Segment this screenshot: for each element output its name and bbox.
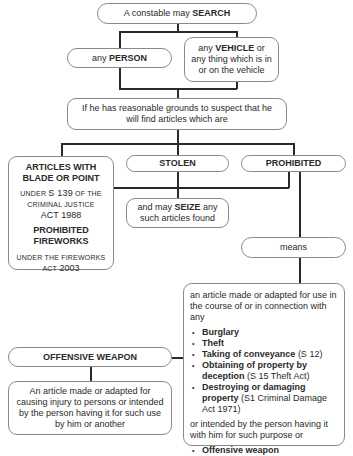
list-item: Taking of conveyance (S 12) <box>202 349 338 360</box>
person-keyword: PERSON <box>109 53 147 63</box>
connector <box>61 143 294 145</box>
blade-title: BLADE OR POINT <box>22 173 99 183</box>
vehicle-keyword: VEHICLE <box>215 43 254 53</box>
list-item: Burglary <box>202 327 338 338</box>
offensive-definition-node: An article made or adapted for causing i… <box>8 381 172 435</box>
grounds-text: If he has reasonable grounds to suspect … <box>82 103 272 114</box>
search-text: A constable may <box>124 8 193 18</box>
connector <box>177 88 179 98</box>
seize-text: any <box>201 202 218 212</box>
offensive-weapon-node: OFFENSIVE WEAPON <box>8 347 172 367</box>
grounds-node: If he has reasonable grounds to suspect … <box>67 98 287 130</box>
blade-node: ARTICLES WITH BLADE OR POINT UNDER S 139… <box>8 156 114 270</box>
connector <box>119 68 121 89</box>
list-item: Obtaining of property by deception (S 15… <box>202 360 338 382</box>
blade-ref: ACT <box>41 210 59 220</box>
vehicle-text: or <box>254 43 265 53</box>
connector <box>90 367 92 381</box>
search-node: A constable may SEARCH <box>97 3 257 24</box>
person-node: any PERSON <box>67 48 172 68</box>
offence-list: Offensive weapon <box>190 445 279 456</box>
vehicle-text: any <box>198 43 215 53</box>
connector <box>114 187 289 189</box>
seize-keyword: SEIZE <box>175 202 201 212</box>
connector <box>172 357 183 359</box>
blade-ref: OF THE <box>73 190 102 197</box>
stolen-node: STOLEN <box>126 155 229 172</box>
definition-node: an article made or adapted for use in th… <box>183 283 345 446</box>
vehicle-node: any VEHICLE or any thing which is in or … <box>184 37 279 82</box>
offensive-label: OFFENSIVE WEAPON <box>43 352 137 362</box>
connector <box>177 172 179 198</box>
list-item: Destroying or damaging property (S1 Crim… <box>202 382 338 415</box>
seize-node: and may SEIZE any such articles found <box>126 198 229 228</box>
list-item: Theft <box>202 338 338 349</box>
blade-ref: UNDER <box>20 190 48 197</box>
person-text: any <box>92 53 109 63</box>
search-keyword: SEARCH <box>192 8 230 18</box>
prohibited-label: PROHIBITED <box>266 158 322 168</box>
blade-ref: S 139 <box>48 188 73 198</box>
connector <box>61 143 63 156</box>
fireworks-title: FIREWORKS <box>34 236 89 246</box>
fireworks-title: PROHIBITED <box>33 225 89 235</box>
seize-text: such articles found <box>140 213 215 224</box>
blade-ref: CRIMINAL JUSTICE <box>27 199 95 210</box>
blade-ref: 1988 <box>59 210 82 220</box>
connector <box>288 172 290 188</box>
prohibited-node: PROHIBITED <box>241 155 346 172</box>
fireworks-ref: ACT <box>42 265 57 272</box>
definition-intro: an article made or adapted for use in th… <box>190 290 338 323</box>
offence-list: Burglary Theft Taking of conveyance (S 1… <box>190 327 338 415</box>
grounds-text: will find articles which are <box>126 114 228 125</box>
means-label: means <box>280 242 307 253</box>
connector <box>299 258 301 283</box>
means-node: means <box>241 237 346 258</box>
fireworks-ref: 2003 <box>57 263 80 273</box>
stolen-label: STOLEN <box>159 158 195 168</box>
vehicle-text: or on the vehicle <box>198 65 264 76</box>
connector <box>293 143 295 155</box>
blade-title: ARTICLES WITH <box>26 162 97 172</box>
connector <box>299 172 301 237</box>
connector <box>119 31 121 48</box>
offensive-definition-text: An article made or adapted for causing i… <box>15 386 165 430</box>
seize-text: and may <box>137 202 174 212</box>
connector <box>119 31 237 33</box>
vehicle-text: any thing which is in <box>191 54 272 65</box>
list-item: Offensive weapon <box>202 445 279 456</box>
definition-middle: or intended by the person having it with… <box>190 419 338 441</box>
fireworks-ref: UNDER THE FIREWORKS <box>17 252 106 263</box>
